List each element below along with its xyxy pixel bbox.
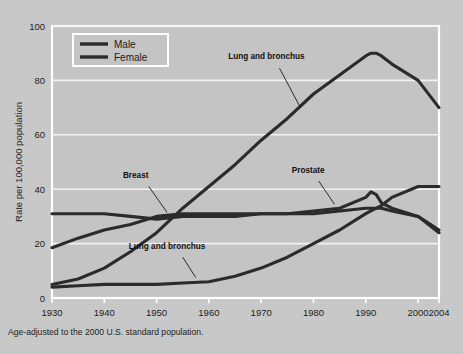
legend-label-female: Female bbox=[114, 52, 148, 63]
annotation-lung-female: Lung and bronchus bbox=[129, 242, 206, 251]
x-axis-tick-labels: 193019401950196019701980199020002004 bbox=[41, 307, 449, 318]
y-axis-title-text: Rate per 100,000 population bbox=[13, 102, 24, 222]
x-tick-label: 1930 bbox=[41, 307, 62, 318]
annotation-lung-male: Lung and bronchus bbox=[228, 52, 305, 61]
figure-footnote: Age-adjusted to the 2000 U.S. standard p… bbox=[8, 327, 203, 337]
x-tick-label: 1980 bbox=[303, 307, 324, 318]
x-tick-label: 1970 bbox=[251, 307, 272, 318]
cancer-death-rate-line-chart: 020406080100 193019401950196019701980199… bbox=[0, 0, 463, 354]
x-tick-label: 1950 bbox=[146, 307, 167, 318]
y-axis-tick-labels: 020406080100 bbox=[29, 21, 45, 304]
legend-label-male: Male bbox=[114, 39, 136, 50]
x-tick-label: 2004 bbox=[428, 307, 449, 318]
chart-legend: MaleFemale bbox=[73, 34, 168, 66]
footnote-text: Age-adjusted to the 2000 U.S. standard p… bbox=[8, 327, 203, 337]
y-tick-label: 100 bbox=[29, 21, 45, 32]
x-tick-label: 1990 bbox=[355, 307, 376, 318]
y-tick-label: 40 bbox=[34, 184, 45, 195]
y-tick-label: 0 bbox=[40, 293, 45, 304]
y-tick-label: 20 bbox=[34, 238, 45, 249]
figure-canvas: 020406080100 193019401950196019701980199… bbox=[0, 0, 463, 354]
annotation-breast: Breast bbox=[123, 171, 149, 180]
y-tick-label: 80 bbox=[34, 75, 45, 86]
y-axis-title: Rate per 100,000 population bbox=[13, 102, 24, 222]
y-tick-label: 60 bbox=[34, 129, 45, 140]
x-tick-label: 1960 bbox=[198, 307, 219, 318]
x-tick-label: 2000 bbox=[408, 307, 429, 318]
x-tick-label: 1940 bbox=[94, 307, 115, 318]
annotation-prostate: Prostate bbox=[292, 166, 325, 175]
